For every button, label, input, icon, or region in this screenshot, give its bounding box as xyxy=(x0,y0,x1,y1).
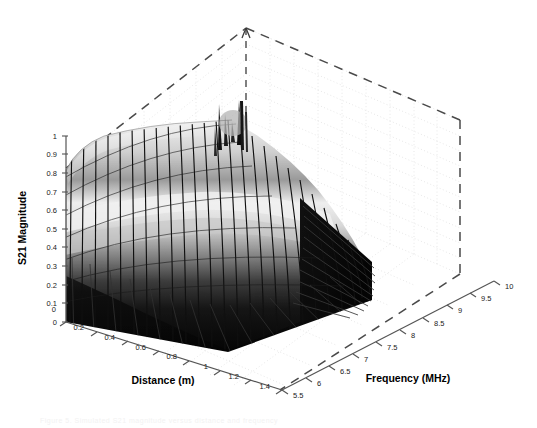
y-tick-5: 8 xyxy=(411,331,415,340)
z-tick-2: 0.2 xyxy=(47,281,57,290)
x-tick-0: 0 xyxy=(52,305,56,314)
z-tick-6: 0.6 xyxy=(47,206,57,215)
y-tick-4: 7.5 xyxy=(387,343,397,352)
y-tick-8: 9.5 xyxy=(481,294,491,303)
z-axis-tick-labels: 1 0.9 0.8 0.7 0.6 0.5 0.4 0.3 0.2 0.1 0 xyxy=(47,132,57,327)
x-tick-7: 1.4 xyxy=(260,382,270,391)
surface-plot-3d: 1 0.9 0.8 0.7 0.6 0.5 0.4 0.3 0.2 0.1 0 … xyxy=(0,0,537,428)
z-tick-8: 0.8 xyxy=(47,169,57,178)
y-tick-0: 5.5 xyxy=(293,391,303,400)
axis-z: 1 0.9 0.8 0.7 0.6 0.5 0.4 0.3 0.2 0.1 0 … xyxy=(16,132,68,327)
y-tick-6: 8.5 xyxy=(434,319,444,328)
y-tick-7: 9 xyxy=(458,306,462,315)
x-tick-6: 1.2 xyxy=(229,372,239,381)
z-tick-5: 0.5 xyxy=(47,225,57,234)
x-tick-4: 0.8 xyxy=(167,352,177,361)
x-tick-2: 0.4 xyxy=(105,333,115,342)
x-tick-1: 0.2 xyxy=(74,323,84,332)
y-tick-1: 6 xyxy=(317,379,321,388)
x-tick-5: 1 xyxy=(204,362,208,371)
z-tick-9: 0.9 xyxy=(47,150,57,159)
z-tick-10: 1 xyxy=(53,132,57,141)
z-tick-4: 0.4 xyxy=(47,243,57,252)
x-axis-title: Distance (m) xyxy=(131,374,194,386)
z-axis-title: S21 Magnitude xyxy=(16,191,28,265)
x-tick-3: 0.6 xyxy=(136,343,146,352)
y-axis-title: Frequency (MHz) xyxy=(366,372,451,384)
figure-canvas: 1 0.9 0.8 0.7 0.6 0.5 0.4 0.3 0.2 0.1 0 … xyxy=(0,0,537,428)
figure-caption: Figure 5. Simulated S21 magnitude versus… xyxy=(0,417,537,428)
z-tick-3: 0.3 xyxy=(47,262,57,271)
z-tick-0: 0 xyxy=(53,318,57,327)
y-tick-2: 6.5 xyxy=(340,367,350,376)
y-tick-9: 10 xyxy=(505,282,513,291)
box-edge-top-right xyxy=(246,28,460,120)
z-tick-7: 0.7 xyxy=(47,188,57,197)
y-tick-3: 7 xyxy=(364,355,368,364)
